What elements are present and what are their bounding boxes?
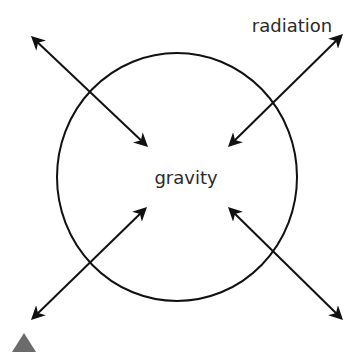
arrow-bottom-left <box>33 209 145 318</box>
arrow-bottom-right <box>230 209 341 318</box>
arrow-top-left <box>33 38 146 145</box>
arrow-top-right <box>230 36 341 145</box>
triangle-marker-icon <box>12 333 36 352</box>
radiation-label: radiation <box>252 15 332 36</box>
gravity-radiation-diagram: gravity radiation <box>0 0 357 352</box>
gravity-label: gravity <box>154 167 218 188</box>
